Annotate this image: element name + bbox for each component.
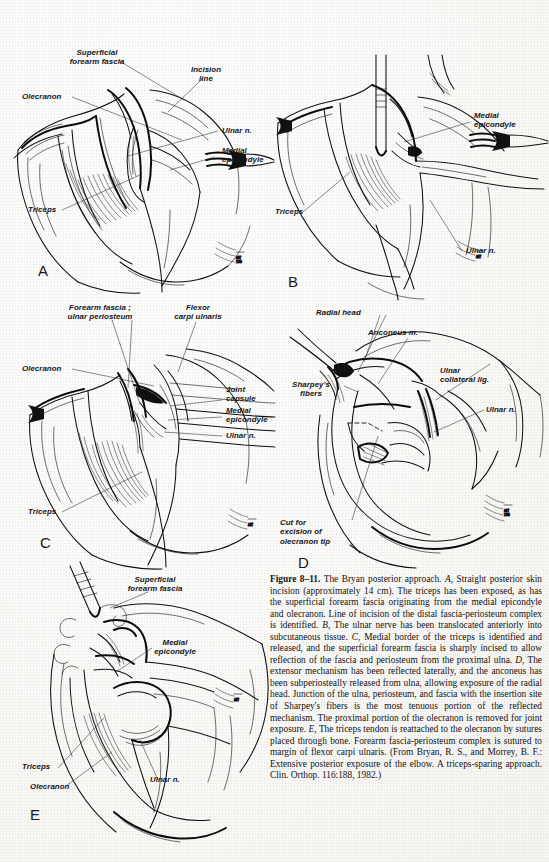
label-e-olecranon: Olecranon	[30, 782, 69, 791]
label-d-ulnar-collateral-lig: Ulnar collateral lig.	[440, 366, 489, 385]
svg-text:ART: ART	[236, 256, 242, 260]
label-c-olecranon: Olecranon	[22, 364, 61, 373]
figure-panel-b: ART	[272, 55, 549, 300]
label-a-medial-epicondyle: Medial epicondyle	[222, 146, 264, 165]
label-e-superficial-forearm-fascia: Superficial forearm fascia	[110, 575, 200, 594]
figure-caption: Figure 8–11. The Bryan posterior approac…	[270, 574, 542, 782]
label-b-triceps: Triceps	[275, 207, 303, 216]
svg-text:ART: ART	[234, 698, 240, 702]
label-d-anconeus-m: Anconeus m.	[368, 328, 418, 337]
svg-text:ART: ART	[248, 523, 254, 527]
panel-letter-a: A	[38, 262, 48, 279]
caption-figure-number: Figure 8–11.	[270, 574, 320, 584]
label-d-ulnar-n: Ulnar n.	[486, 405, 516, 414]
svg-text:1980: 1980	[236, 260, 242, 264]
figure-panel-e: ART	[18, 560, 273, 860]
label-a-superficial-forearm-fascia: Superficial forearm fascia	[52, 48, 142, 67]
label-c-joint-capsule: Joint capsule	[226, 385, 256, 404]
caption-marker-e: E,	[309, 724, 317, 734]
label-e-medial-epicondyle: Medial epicondyle	[146, 638, 204, 657]
panel-letter-d: D	[298, 554, 309, 571]
label-e-ulnar-n: Ulnar n.	[150, 775, 180, 784]
caption-text-d: The extensor mechanism has been reflecte…	[270, 655, 542, 734]
panel-letter-e: E	[30, 806, 40, 823]
label-e-triceps: Triceps	[22, 762, 50, 771]
label-d-cut-for-excision: Cut for excision of olecranon tip	[280, 518, 330, 546]
label-c-forearm-fascia-ulnar-periosteum: Forearm fascia ; ulnar periosteum	[46, 303, 154, 322]
label-d-radial-head: Radial head	[316, 308, 361, 317]
label-b-medial-epicondyle: Medial epicondyle	[474, 111, 516, 130]
label-c-triceps: Triceps	[28, 507, 56, 516]
label-a-olecranon: Olecranon	[22, 92, 61, 101]
svg-text:ART: ART	[476, 255, 482, 259]
svg-text:1980: 1980	[504, 513, 510, 517]
caption-title: The Bryan posterior approach.	[320, 574, 445, 584]
caption-marker-a: A,	[445, 574, 453, 584]
label-c-flexor-carpi-ulnaris: Flexor carpi ulnaris	[166, 303, 230, 322]
label-c-medial-epicondyle: Medial epicondyle	[226, 406, 268, 425]
label-c-ulnar-n: Ulnar n.	[226, 431, 256, 440]
label-a-triceps: Triceps	[28, 205, 56, 214]
svg-text:ART: ART	[504, 509, 510, 513]
label-d-sharpeys-fibers: Sharpey's fibers	[282, 380, 340, 399]
panel-letter-b: B	[288, 273, 298, 290]
label-a-ulnar-n: Ulnar n.	[222, 126, 252, 135]
label-b-ulnar-n: Ulnar n.	[466, 246, 496, 255]
label-a-incision-line: Incision line	[180, 65, 232, 84]
panel-letter-c: C	[40, 534, 51, 551]
